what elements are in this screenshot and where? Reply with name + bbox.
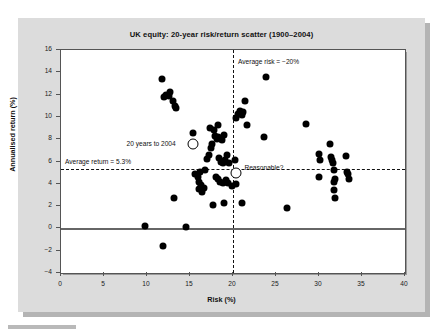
data-point <box>260 133 267 140</box>
x-tick-label: 25 <box>266 280 284 287</box>
y-tick-label: 16 <box>36 45 52 52</box>
y-tick-mark <box>56 161 60 162</box>
data-point <box>160 243 167 250</box>
y-tick-label: 8 <box>36 134 52 141</box>
y-tick-label: −4 <box>36 268 52 275</box>
figure-root: UK equity: 20-year risk/return scatter (… <box>0 0 443 336</box>
x-tick-label: 30 <box>309 280 327 287</box>
y-tick-label: 6 <box>36 157 52 164</box>
x-tick-mark <box>146 272 147 276</box>
data-point <box>232 180 239 187</box>
x-tick-label: 35 <box>352 280 370 287</box>
y-tick-mark <box>56 116 60 117</box>
data-point <box>220 131 227 138</box>
data-point <box>200 185 207 192</box>
data-point <box>142 223 149 230</box>
y-tick-mark <box>56 227 60 228</box>
data-point <box>210 201 217 208</box>
data-point <box>243 121 250 128</box>
data-point <box>231 157 238 164</box>
annotation-average-risk: Average risk = −20% <box>238 58 299 65</box>
y-tick-label: 12 <box>36 90 52 97</box>
y-tick-label: −2 <box>36 246 52 253</box>
y-tick-label: 2 <box>36 201 52 208</box>
data-point <box>327 140 334 147</box>
y-tick-mark <box>56 94 60 95</box>
data-point <box>170 195 177 202</box>
y-tick-label: 4 <box>36 179 52 186</box>
x-tick-mark <box>103 272 104 276</box>
data-point <box>242 98 249 105</box>
x-tick-mark <box>275 272 276 276</box>
data-point <box>223 151 230 158</box>
data-point <box>342 152 349 159</box>
x-tick-mark <box>361 272 362 276</box>
chart-panel: UK equity: 20-year risk/return scatter (… <box>18 18 425 312</box>
data-point <box>331 187 338 194</box>
x-tick-mark <box>232 272 233 276</box>
highlight-marker <box>231 167 242 178</box>
y-tick-mark <box>56 183 60 184</box>
data-point <box>316 157 323 164</box>
data-point <box>262 73 269 80</box>
x-tick-label: 15 <box>180 280 198 287</box>
data-point <box>330 178 337 185</box>
x-tick-mark <box>404 272 405 276</box>
plot-area: Average risk = −20%Average return = 5.3%… <box>60 49 406 274</box>
data-point <box>316 174 323 181</box>
annotation-average-return: Average return = 5.3% <box>65 158 131 165</box>
data-point <box>189 129 196 136</box>
footer-rule <box>8 325 76 329</box>
annotation-reasonable: Reasonable? <box>244 164 283 171</box>
data-point <box>329 159 336 166</box>
annotation-20-years-to-2004: 20 years to 2004 <box>127 140 176 147</box>
data-point <box>332 195 339 202</box>
data-point <box>159 75 166 82</box>
reference-line-zero-return <box>61 228 405 229</box>
y-tick-label: 0 <box>36 223 52 230</box>
data-point <box>214 121 221 128</box>
data-point <box>182 224 189 231</box>
x-tick-label: 20 <box>223 280 241 287</box>
x-tick-mark <box>318 272 319 276</box>
data-point <box>240 109 247 116</box>
y-tick-mark <box>56 138 60 139</box>
x-axis-label: Risk (%) <box>18 295 425 304</box>
x-tick-mark <box>189 272 190 276</box>
y-tick-mark <box>56 205 60 206</box>
x-tick-label: 0 <box>51 280 69 287</box>
data-point <box>331 167 338 174</box>
data-point <box>284 205 291 212</box>
data-point <box>202 167 209 174</box>
x-tick-label: 10 <box>137 280 155 287</box>
y-tick-mark <box>56 250 60 251</box>
data-point <box>346 176 353 183</box>
data-point <box>167 89 174 96</box>
data-point <box>205 151 212 158</box>
x-tick-label: 40 <box>395 280 413 287</box>
data-point <box>238 199 245 206</box>
y-tick-mark <box>56 49 60 50</box>
y-tick-label: 10 <box>36 112 52 119</box>
y-tick-mark <box>56 71 60 72</box>
data-point <box>173 104 180 111</box>
x-tick-mark <box>60 272 61 276</box>
chart-title: UK equity: 20-year risk/return scatter (… <box>18 30 425 39</box>
x-tick-label: 5 <box>94 280 112 287</box>
data-point <box>220 199 227 206</box>
highlight-marker <box>187 138 198 149</box>
data-point <box>303 120 310 127</box>
y-tick-label: 14 <box>36 67 52 74</box>
y-axis-label: Annualised return (%) <box>8 97 17 172</box>
